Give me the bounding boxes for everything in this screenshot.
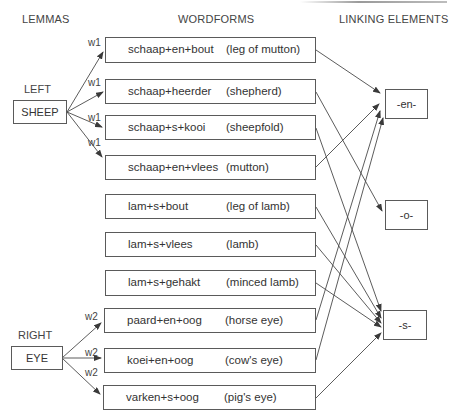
- wordform-box: schaap+s+kooi (sheepfold): [105, 115, 316, 140]
- wordform-gloss: (lamb): [226, 238, 259, 250]
- wordform-form: schaap+en+vlees: [128, 161, 218, 173]
- wordform-form: lam+s+gehakt: [128, 276, 200, 288]
- wordform-box: varken+s+oog (pig's eye): [103, 385, 316, 410]
- wordform-gloss: (sheepfold): [226, 121, 284, 133]
- weight-label: w1: [88, 77, 101, 88]
- lemma-name: SHEEP: [21, 106, 58, 118]
- edge-wf1-en: [316, 50, 380, 93]
- edge-wf10-s: [316, 333, 381, 398]
- weight-label: w1: [88, 137, 101, 148]
- wordform-box: lam+s+vlees (lamb): [105, 232, 316, 257]
- weight-label: w2: [85, 347, 98, 358]
- weight-label: w1: [88, 37, 101, 48]
- edge-wf4-en: [316, 104, 379, 167]
- wordform-gloss: (horse eye): [225, 314, 283, 326]
- linking-element-label: -s-: [399, 319, 412, 331]
- lemma-box-eye: EYE: [11, 346, 63, 370]
- linking-element-box-s: -s-: [383, 310, 427, 340]
- wordform-box: schaap+heerder (shepherd): [105, 79, 316, 104]
- weight-label: w1: [88, 112, 101, 123]
- wordform-form: schaap+heerder: [128, 85, 211, 97]
- wordform-gloss: (minced lamb): [226, 276, 299, 288]
- wordform-gloss: (cow's eye): [225, 354, 283, 366]
- wordform-form: lam+s+bout: [128, 200, 188, 212]
- edge-wf8-en: [316, 111, 380, 320]
- lemma-name: EYE: [26, 352, 48, 364]
- wordform-form: paard+en+oog: [127, 314, 202, 326]
- edge-sheep-wf2: [67, 92, 103, 112]
- wordform-form: koei+en+oog: [127, 354, 194, 366]
- wordform-box: schaap+en+vlees (mutton): [105, 155, 316, 180]
- edge-wf2-o: [316, 92, 382, 211]
- linking-element-box-o: -o-: [385, 200, 428, 230]
- wordform-gloss: (leg of lamb): [226, 200, 290, 212]
- wordform-form: lam+s+vlees: [128, 238, 193, 250]
- lemma-box-sheep: SHEEP: [13, 100, 67, 124]
- wordform-box: lam+s+bout (leg of lamb): [105, 194, 316, 219]
- wordform-box: paard+en+oog (horse eye): [104, 308, 316, 333]
- wordform-form: schaap+s+kooi: [128, 121, 205, 133]
- wordform-gloss: (shepherd): [226, 85, 282, 97]
- wordform-box: lam+s+gehakt (minced lamb): [105, 270, 316, 296]
- edge-wf5-s: [316, 207, 381, 318]
- wordform-form: schaap+en+bout: [128, 43, 214, 55]
- linking-element-box-en: -en-: [385, 89, 428, 119]
- weight-label: w2: [85, 367, 98, 378]
- wordform-gloss: (leg of mutton): [226, 43, 300, 55]
- weight-label: w2: [85, 311, 98, 322]
- linking-element-label: -o-: [400, 209, 413, 221]
- wordform-gloss: (mutton): [226, 161, 269, 173]
- wordform-form: varken+s+oog: [126, 391, 199, 403]
- wordform-box: schaap+en+bout (leg of mutton): [105, 37, 316, 63]
- wordform-box: koei+en+oog (cow's eye): [104, 348, 316, 373]
- lemma-side-label-left: LEFT: [24, 83, 51, 95]
- wordform-gloss: (pig's eye): [224, 391, 277, 403]
- edge-wf9-en: [316, 118, 383, 360]
- lemma-side-label-right: RIGHT: [18, 329, 52, 341]
- linking-element-label: -en-: [397, 98, 417, 110]
